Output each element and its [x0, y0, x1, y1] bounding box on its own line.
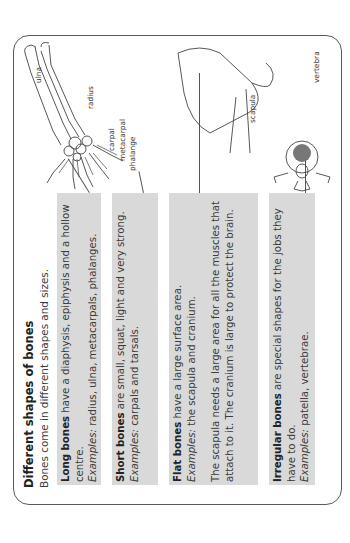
label-scapula: scapula: [248, 95, 257, 123]
irregular-bones-box: Irregular bones are special shapes for t…: [269, 193, 315, 485]
flat-bones-desc: have a large surface area.: [172, 285, 183, 422]
irregular-bones-term: Irregular bones: [272, 393, 283, 482]
examples-label: Examples:: [299, 429, 310, 482]
label-ulna: ulna: [34, 67, 43, 83]
examples-label: Examples:: [129, 429, 140, 482]
flat-bones-box: Flat bones have a large surface area.Exa…: [169, 193, 258, 485]
page-title: Different shapes of bones: [22, 321, 36, 488]
long-bones-term: Long bones: [60, 416, 71, 482]
page-subtitle: Bones come in different shapes and sizes…: [38, 269, 50, 488]
flat-bones-note: The scapula needs a large area for all t…: [209, 196, 236, 482]
short-bones-examples: carpals and tarsals.: [129, 326, 140, 429]
long-bones-box: Long bones have a diaphysis, epiphysis a…: [57, 193, 101, 485]
short-bones-desc: are small, squat, light and very strong.: [115, 211, 126, 412]
short-bones-box: Short bones are small, squat, light and …: [112, 193, 158, 485]
examples-label: Examples:: [87, 429, 98, 482]
label-carpal: carpal: [107, 128, 116, 151]
rotated-page: Different shapes of bones Bones come in …: [0, 0, 350, 543]
label-phalange: phalange: [128, 137, 137, 171]
examples-label: Examples:: [186, 429, 197, 482]
label-vertebra: vertebra: [312, 51, 321, 83]
flat-bones-examples: the scapula and cranium.: [186, 296, 197, 429]
short-bones-term: Short bones: [115, 412, 126, 482]
arm-hand-skeleton-illustration: [13, 35, 173, 193]
long-bones-examples: radius, ulna, metacarpals, phalanges.: [87, 234, 98, 429]
label-radius: radius: [86, 86, 95, 109]
flat-bones-term: Flat bones: [172, 422, 183, 482]
label-metacarpal: metacarpal: [118, 119, 127, 161]
irregular-bones-examples: patella, vertebrae.: [299, 331, 310, 429]
